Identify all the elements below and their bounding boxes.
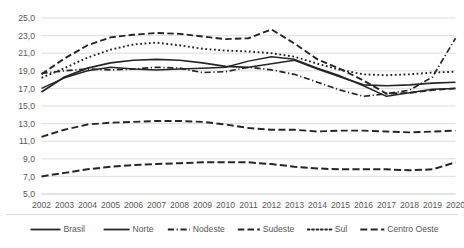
x-tick-label: 2006 <box>124 200 143 210</box>
y-tick-label: 13,0 <box>18 119 35 129</box>
y-axis-tick-labels: 5,07,09,011,013,015,017,019,021,023,025,… <box>18 13 35 199</box>
line-chart-svg: 5,07,09,011,013,015,017,019,021,023,025,… <box>0 0 464 248</box>
x-tick-label: 2016 <box>354 200 373 210</box>
x-tick-label: 2020 <box>446 200 464 210</box>
x-tick-label: 2014 <box>308 200 327 210</box>
legend-label-nodeste[interactable]: Nodeste <box>193 224 225 234</box>
series-line-sul <box>42 43 456 78</box>
x-tick-label: 2008 <box>170 200 189 210</box>
y-tick-label: 25,0 <box>18 13 35 23</box>
legend-label-centro-oeste[interactable]: Centro Oeste <box>387 224 438 234</box>
y-tick-label: 21,0 <box>18 48 35 58</box>
x-tick-label: 2004 <box>78 200 97 210</box>
x-tick-label: 2005 <box>101 200 120 210</box>
series-line-norte <box>42 57 456 97</box>
y-tick-label: 17,0 <box>18 84 35 94</box>
legend-label-sul[interactable]: Sul <box>335 224 348 234</box>
y-tick-label: 9,0 <box>23 154 35 164</box>
series-line-centro-oeste-lower <box>42 162 456 176</box>
y-tick-label: 5,0 <box>23 189 35 199</box>
data-series-lines <box>42 29 456 176</box>
x-tick-label: 2011 <box>239 200 258 210</box>
x-tick-label: 2012 <box>262 200 281 210</box>
x-tick-label: 2019 <box>423 200 442 210</box>
y-tick-label: 11,0 <box>19 136 35 146</box>
x-tick-label: 2010 <box>216 200 235 210</box>
x-tick-label: 2003 <box>55 200 74 210</box>
legend-label-brasil[interactable]: Brasil <box>64 224 86 234</box>
x-tick-label: 2007 <box>147 200 166 210</box>
legend-label-norte[interactable]: Norte <box>133 224 154 234</box>
x-tick-label: 2015 <box>331 200 350 210</box>
plot-area: 5,07,09,011,013,015,017,019,021,023,025,… <box>0 0 464 248</box>
chart-legend: BrasilNorteNodesteSudesteSulCentro Oeste <box>31 224 439 234</box>
x-tick-label: 2013 <box>285 200 304 210</box>
x-axis-tick-labels: 2002200320042005200620072008200920102011… <box>32 200 464 210</box>
gridlines <box>6 18 458 215</box>
y-tick-label: 7,0 <box>23 172 35 182</box>
y-tick-label: 19,0 <box>18 66 35 76</box>
y-tick-label: 15,0 <box>18 101 35 111</box>
x-tick-label: 2009 <box>193 200 212 210</box>
series-line-brasil <box>42 59 456 92</box>
legend-label-sudeste[interactable]: Sudeste <box>263 224 295 234</box>
x-tick-label: 2018 <box>400 200 419 210</box>
chart-container: 5,07,09,011,013,015,017,019,021,023,025,… <box>0 0 464 248</box>
y-tick-label: 23,0 <box>18 31 35 41</box>
x-tick-label: 2002 <box>32 200 51 210</box>
x-tick-label: 2017 <box>377 200 396 210</box>
